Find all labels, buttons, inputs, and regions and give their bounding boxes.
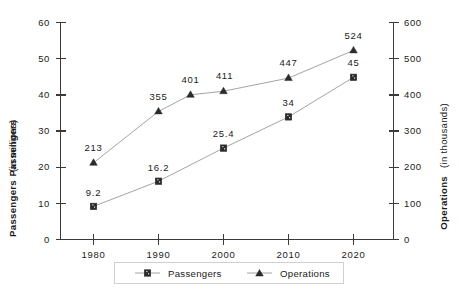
data-label-passengers-1980: 9.2	[86, 187, 101, 198]
data-point-operations-2020	[350, 46, 358, 53]
left-axis-title-group: Passengers (in millions)	[7, 120, 18, 237]
y-tick-label-50: 50	[38, 53, 50, 64]
data-label-passengers-2000: 25.4	[213, 128, 234, 139]
data-point-operations-1995	[187, 91, 195, 98]
legend-label-operations: Operations	[280, 268, 330, 279]
legend-label-passengers: Passengers	[168, 268, 222, 279]
data-label-operations-2010: 447	[280, 57, 298, 68]
passengers-markers	[90, 74, 356, 210]
legend: Passengers Operations	[115, 263, 344, 284]
y-tick-label-0: 0	[44, 234, 50, 245]
data-label-passengers-2010: 34	[283, 97, 295, 108]
data-point-operations-1980	[90, 159, 98, 166]
data-point-passengers-2020	[350, 74, 356, 80]
data-point-passengers-2000	[220, 145, 226, 151]
y2-tick-label-400: 400	[404, 89, 422, 100]
x-tick-label-2020: 2020	[342, 249, 366, 260]
legend-marker-square	[144, 270, 150, 276]
right-y-axis: 600 500 400 300 200 100 0	[389, 17, 422, 245]
y2-tick-label-500: 500	[404, 53, 422, 64]
data-label-operations-2000: 411	[216, 70, 233, 81]
left-y-axis: 60 50 40 30 20 10 0	[38, 17, 66, 245]
data-label-operations-1980: 213	[85, 142, 103, 153]
x-tick-label-2000: 2000	[212, 249, 236, 260]
y2-tick-label-100: 100	[404, 198, 422, 209]
right-axis-title-group: Operations (in thousands)	[438, 103, 449, 230]
y2-tick-label-200: 200	[404, 161, 422, 172]
x-tick-label-1980: 1980	[82, 249, 106, 260]
y-tick-label-40: 40	[38, 89, 50, 100]
y2-tick-label-600: 600	[404, 17, 422, 28]
y-tick-label-10: 10	[38, 198, 50, 209]
data-label-passengers-2020: 45	[348, 57, 360, 68]
y-tick-label-60: 60	[38, 17, 50, 28]
right-axis-title-bold-text: Operations	[438, 176, 449, 230]
x-tick-label-2010: 2010	[277, 249, 301, 260]
data-label-passengers-1990: 16.2	[148, 162, 169, 173]
y-tick-label-30: 30	[38, 125, 50, 136]
data-point-passengers-2010	[285, 114, 291, 120]
left-axis-title-bold-text: Passengers	[7, 180, 18, 237]
left-axis-title-plain-text: (in millions)	[7, 120, 18, 172]
data-label-operations-1995: 401	[182, 74, 200, 85]
data-point-passengers-1990	[155, 178, 161, 184]
x-tick-label-1990: 1990	[147, 249, 171, 260]
chart-container: 60 50 40 30 20 10 0 Passengers Passenger…	[0, 0, 459, 294]
y2-tick-label-0: 0	[404, 234, 410, 245]
right-axis-title-plain-text: (in thousands)	[438, 103, 449, 168]
data-point-passengers-1980	[90, 203, 96, 209]
data-label-operations-2020: 524	[345, 30, 363, 41]
x-axis: 1980 1990 2000 2010 2020	[61, 234, 394, 260]
data-label-operations-1990: 355	[150, 91, 168, 102]
y-tick-label-20: 20	[38, 161, 50, 172]
y2-tick-label-300: 300	[404, 125, 422, 136]
data-point-operations-1990	[155, 107, 163, 114]
